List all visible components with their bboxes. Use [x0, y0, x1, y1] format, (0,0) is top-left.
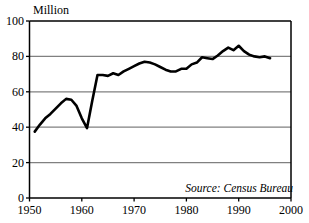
x-tick-label: 1990	[219, 204, 259, 216]
x-tick-label: 1980	[166, 204, 206, 216]
x-tick-label: 1970	[114, 204, 154, 216]
y-tick-label: 100	[0, 15, 24, 27]
y-tick-label: 20	[0, 157, 24, 169]
plot-frame	[30, 21, 292, 198]
y-tick-label: 40	[0, 121, 24, 133]
y-axis-unit-label: Million	[33, 3, 69, 17]
chart-figure: Million 020406080100 1950196019701980199…	[0, 0, 309, 223]
gridlines	[30, 56, 292, 162]
source-attribution: Source: Census Bureau	[185, 182, 293, 195]
x-tick-label: 1950	[10, 204, 50, 216]
y-tick-label: 60	[0, 86, 24, 98]
data-series-line	[35, 46, 270, 132]
y-tick-label: 80	[0, 50, 24, 62]
x-tick-label: 1960	[62, 204, 102, 216]
axis-ticks	[26, 21, 291, 202]
x-tick-label: 2000	[271, 204, 309, 216]
